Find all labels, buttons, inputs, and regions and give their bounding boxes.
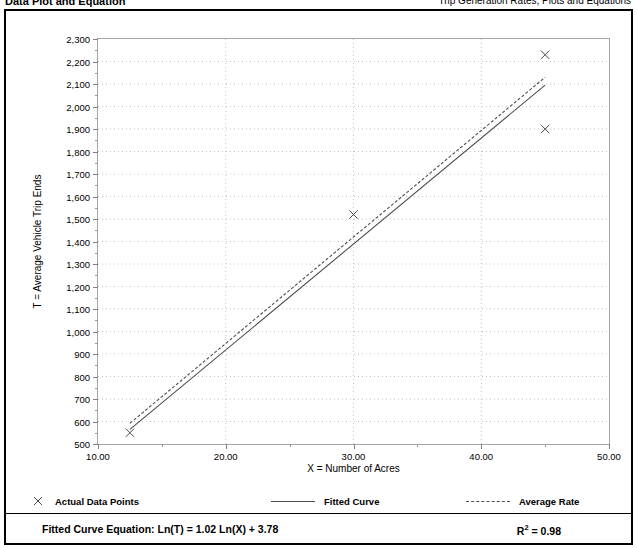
- y-minor-tick-mark: [95, 163, 98, 164]
- y-minor-tick-mark: [95, 320, 98, 321]
- x-tick-label: 10.00: [86, 451, 110, 462]
- legend-item-fitted-curve: Fitted Curve: [271, 489, 379, 513]
- x-tick-mark: [481, 444, 482, 449]
- y-minor-tick-mark: [95, 388, 98, 389]
- y-tick-label: 500: [74, 439, 90, 450]
- x-tick-mark: [226, 444, 227, 449]
- y-tick-mark: [93, 197, 98, 198]
- y-tick-label: 2,100: [66, 79, 90, 90]
- x-tick-label: 50.00: [597, 451, 621, 462]
- y-tick-label: 1,000: [66, 326, 90, 337]
- x-minor-tick-mark: [290, 444, 291, 447]
- y-minor-tick-mark: [95, 365, 98, 366]
- y-minor-tick-mark: [95, 298, 98, 299]
- y-tick-mark: [93, 84, 98, 85]
- chart-block: T = Average Vehicle Trip Ends 5006007008…: [6, 11, 631, 489]
- y-minor-tick-mark: [95, 275, 98, 276]
- y-tick-label: 700: [74, 394, 90, 405]
- y-tick-label: 1,100: [66, 304, 90, 315]
- y-minor-tick-mark: [95, 118, 98, 119]
- y-tick-label: 1,400: [66, 236, 90, 247]
- legend-label: Actual Data Points: [55, 496, 139, 507]
- y-minor-tick-mark: [95, 73, 98, 74]
- y-tick-label: 1,800: [66, 146, 90, 157]
- x-minor-tick-mark: [417, 444, 418, 447]
- plot-svg: [98, 39, 609, 444]
- y-minor-tick-mark: [95, 253, 98, 254]
- y-tick-label: 800: [74, 371, 90, 382]
- chart-legend: Actual Data Points Fitted Curve Average …: [6, 489, 631, 513]
- y-tick-mark: [93, 242, 98, 243]
- legend-label: Fitted Curve: [324, 496, 379, 507]
- y-axis-title-label: T = Average Vehicle Trip Ends: [33, 175, 44, 309]
- x-axis-title-label: X = Number of Acres: [307, 463, 400, 474]
- y-minor-tick-mark: [95, 410, 98, 411]
- legend-item-actual-data-points: Actual Data Points: [30, 489, 139, 513]
- y-minor-tick-mark: [95, 50, 98, 51]
- dashed-line-icon: [466, 495, 510, 507]
- x-minor-tick-mark: [545, 444, 546, 447]
- x-tick-label: 40.00: [469, 451, 493, 462]
- figure-frame: T = Average Vehicle Trip Ends 5006007008…: [4, 9, 633, 545]
- y-tick-mark: [93, 309, 98, 310]
- fitted-curve-equation: Fitted Curve Equation: Ln(T) = 1.02 Ln(X…: [42, 523, 278, 535]
- x-minor-tick-mark: [162, 444, 163, 447]
- y-tick-mark: [93, 399, 98, 400]
- y-tick-mark: [93, 39, 98, 40]
- legend-item-average-rate: Average Rate: [466, 489, 579, 513]
- r-value: = 0.98: [532, 525, 562, 537]
- y-axis-title: T = Average Vehicle Trip Ends: [30, 38, 46, 445]
- y-minor-tick-mark: [95, 185, 98, 186]
- y-tick-mark: [93, 129, 98, 130]
- x-marker-icon: [30, 495, 46, 507]
- y-tick-mark: [93, 174, 98, 175]
- y-tick-mark: [93, 152, 98, 153]
- y-tick-label: 900: [74, 349, 90, 360]
- x-tick-mark: [609, 444, 610, 449]
- y-tick-mark: [93, 332, 98, 333]
- plot-area: 5006007008009001,0001,1001,2001,3001,400…: [97, 38, 610, 445]
- y-tick-label: 600: [74, 416, 90, 427]
- y-tick-mark: [93, 377, 98, 378]
- y-tick-label: 1,900: [66, 124, 90, 135]
- x-tick-label: 30.00: [342, 451, 366, 462]
- y-tick-label: 2,000: [66, 101, 90, 112]
- y-tick-label: 1,700: [66, 169, 90, 180]
- y-tick-mark: [93, 219, 98, 220]
- y-tick-label: 2,200: [66, 56, 90, 67]
- x-axis-title: X = Number of Acres: [97, 463, 610, 474]
- y-minor-tick-mark: [95, 95, 98, 96]
- y-minor-tick-mark: [95, 343, 98, 344]
- y-tick-mark: [93, 264, 98, 265]
- y-tick-label: 1,200: [66, 281, 90, 292]
- y-tick-label: 1,600: [66, 191, 90, 202]
- y-tick-label: 1,500: [66, 214, 90, 225]
- x-tick-mark: [98, 444, 99, 449]
- page-title: Data Plot and Equation: [5, 0, 125, 7]
- equation-row: Fitted Curve Equation: Ln(T) = 1.02 Ln(X…: [6, 513, 631, 546]
- y-tick-mark: [93, 107, 98, 108]
- y-minor-tick-mark: [95, 140, 98, 141]
- y-tick-label: 2,300: [66, 34, 90, 45]
- y-tick-mark: [93, 354, 98, 355]
- y-tick-mark: [93, 287, 98, 288]
- solid-line-icon: [271, 495, 315, 507]
- x-tick-label: 20.00: [214, 451, 238, 462]
- header-subtitle: Trip Generation Rates, Plots and Equatio…: [438, 0, 631, 6]
- r-squared-value: R2 = 0.98: [517, 523, 561, 537]
- y-tick-mark: [93, 62, 98, 63]
- r-exponent: 2: [524, 523, 528, 532]
- y-minor-tick-mark: [95, 208, 98, 209]
- y-minor-tick-mark: [95, 433, 98, 434]
- y-tick-mark: [93, 422, 98, 423]
- legend-label: Average Rate: [519, 496, 579, 507]
- x-tick-mark: [354, 444, 355, 449]
- y-tick-label: 1,300: [66, 259, 90, 270]
- y-minor-tick-mark: [95, 230, 98, 231]
